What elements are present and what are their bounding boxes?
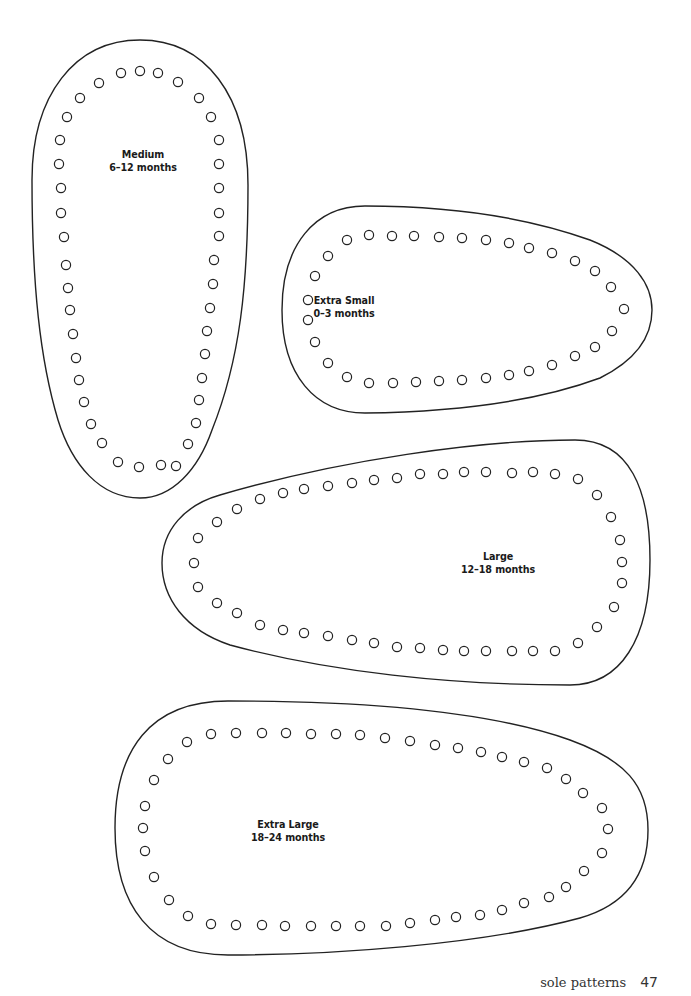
stitch-hole-icon bbox=[214, 208, 223, 217]
stitch-hole-icon bbox=[405, 736, 414, 745]
age-range: 18–24 months bbox=[251, 831, 325, 844]
extra-large-sole-pattern bbox=[115, 701, 648, 955]
stitch-hole-icon bbox=[303, 315, 312, 324]
stitch-hole-icon bbox=[116, 68, 125, 77]
stitch-hole-icon bbox=[323, 358, 332, 367]
stitch-hole-icon bbox=[481, 373, 490, 382]
stitch-hole-icon bbox=[331, 921, 340, 930]
stitch-hole-icon bbox=[617, 578, 626, 587]
stitch-hole-icon bbox=[206, 112, 215, 121]
stitch-hole-icon bbox=[388, 378, 397, 387]
stitch-hole-icon bbox=[208, 279, 217, 288]
stitch-hole-icon bbox=[617, 557, 626, 566]
stitch-hole-icon bbox=[61, 260, 70, 269]
stitch-hole-icon bbox=[94, 78, 103, 87]
stitch-hole-icon bbox=[86, 419, 95, 428]
stitch-hole-icon bbox=[194, 395, 203, 404]
stitch-hole-icon bbox=[197, 373, 206, 382]
size-name: Extra Large bbox=[251, 818, 325, 831]
stitch-hole-icon bbox=[497, 905, 506, 914]
stitch-hole-icon bbox=[451, 912, 460, 921]
stitch-hole-icon bbox=[56, 183, 65, 192]
stitch-hole-icon bbox=[278, 625, 287, 634]
stitch-hole-icon bbox=[544, 892, 553, 901]
age-range: 12–18 months bbox=[461, 563, 535, 576]
stitch-hole-icon bbox=[209, 255, 218, 264]
stitch-hole-icon bbox=[281, 728, 290, 737]
stitch-hole-icon bbox=[592, 622, 601, 631]
section-title: sole patterns bbox=[540, 975, 626, 990]
stitch-hole-icon bbox=[171, 461, 180, 470]
stitch-hole-icon bbox=[415, 469, 424, 478]
stitch-hole-icon bbox=[380, 733, 389, 742]
stitch-hole-icon bbox=[603, 824, 612, 833]
stitch-hole-icon bbox=[524, 366, 533, 375]
stitch-hole-icon bbox=[202, 326, 211, 335]
stitch-hole-icon bbox=[573, 638, 582, 647]
stitch-hole-icon bbox=[573, 474, 582, 483]
stitch-hole-icon bbox=[597, 848, 606, 857]
stitch-hole-icon bbox=[578, 788, 587, 797]
stitch-hole-icon bbox=[323, 631, 332, 640]
stitch-hole-icon bbox=[459, 646, 468, 655]
stitch-hole-icon bbox=[547, 360, 556, 369]
extra-small-sole-label: Extra Small 0–3 months bbox=[313, 294, 374, 320]
stitch-hole-icon bbox=[381, 921, 390, 930]
stitch-hole-icon bbox=[306, 729, 315, 738]
large-sole-outline bbox=[162, 440, 650, 685]
stitch-hole-icon bbox=[113, 457, 122, 466]
sole-pattern-drawings bbox=[0, 0, 691, 996]
stitch-hole-icon bbox=[411, 377, 420, 386]
stitch-hole-icon bbox=[194, 93, 203, 102]
stitch-hole-icon bbox=[164, 895, 173, 904]
stitch-hole-icon bbox=[231, 728, 240, 737]
stitch-hole-icon bbox=[507, 468, 516, 477]
stitch-hole-icon bbox=[97, 438, 106, 447]
stitch-hole-icon bbox=[79, 397, 88, 406]
stitch-hole-icon bbox=[214, 159, 223, 168]
stitch-hole-icon bbox=[606, 282, 615, 291]
stitch-hole-icon bbox=[59, 232, 68, 241]
stitch-hole-icon bbox=[528, 467, 537, 476]
stitch-hole-icon bbox=[257, 920, 266, 929]
stitch-hole-icon bbox=[280, 921, 289, 930]
stitch-hole-icon bbox=[405, 918, 414, 927]
stitch-hole-icon bbox=[75, 93, 84, 102]
stitch-hole-icon bbox=[570, 351, 579, 360]
stitch-hole-icon bbox=[62, 112, 71, 121]
stitch-hole-icon bbox=[56, 208, 65, 217]
stitch-hole-icon bbox=[68, 329, 77, 338]
stitch-hole-icon bbox=[524, 243, 533, 252]
stitch-hole-icon bbox=[342, 235, 351, 244]
stitch-hole-icon bbox=[519, 757, 528, 766]
stitch-hole-icon bbox=[278, 488, 287, 497]
stitch-hole-icon bbox=[206, 729, 215, 738]
stitch-hole-icon bbox=[212, 517, 221, 526]
stitch-hole-icon bbox=[387, 231, 396, 240]
stitch-hole-icon bbox=[134, 462, 143, 471]
stitch-hole-icon bbox=[183, 911, 192, 920]
stitch-hole-icon bbox=[306, 921, 315, 930]
stitch-hole-icon bbox=[323, 251, 332, 260]
stitch-hole-icon bbox=[579, 866, 588, 875]
stitch-hole-icon bbox=[149, 775, 158, 784]
extra-large-sole-outline bbox=[115, 701, 648, 955]
stitch-hole-icon bbox=[149, 872, 158, 881]
stitch-hole-icon bbox=[609, 602, 618, 611]
stitch-hole-icon bbox=[592, 490, 601, 499]
stitch-hole-icon bbox=[232, 608, 241, 617]
stitch-hole-icon bbox=[607, 326, 616, 335]
stitch-hole-icon bbox=[299, 484, 308, 493]
stitch-hole-icon bbox=[481, 467, 490, 476]
stitch-hole-icon bbox=[303, 295, 312, 304]
stitch-hole-icon bbox=[415, 643, 424, 652]
stitch-hole-icon bbox=[257, 728, 266, 737]
stitch-hole-icon bbox=[528, 646, 537, 655]
stitch-hole-icon bbox=[504, 370, 513, 379]
stitch-hole-icon bbox=[369, 475, 378, 484]
stitch-hole-icon bbox=[550, 646, 559, 655]
stitch-hole-icon bbox=[409, 231, 418, 240]
stitch-hole-icon bbox=[140, 801, 149, 810]
stitch-hole-icon bbox=[140, 846, 149, 855]
stitch-hole-icon bbox=[255, 494, 264, 503]
